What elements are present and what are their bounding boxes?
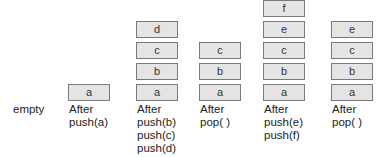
stack-item: a <box>263 84 305 101</box>
stack-item: c <box>199 42 241 59</box>
stack-item: f <box>263 0 305 17</box>
stack-item: a <box>199 84 241 101</box>
stack-item: b <box>331 63 373 80</box>
state-empty-caption: empty <box>13 103 44 116</box>
stack-item: a <box>136 84 178 101</box>
stack-item: b <box>136 63 178 80</box>
stack-item: a <box>331 84 373 101</box>
stack-item: e <box>331 21 373 38</box>
stack: a b c d <box>136 21 178 101</box>
stack: a b c e <box>331 21 373 101</box>
stack-item: d <box>136 21 178 38</box>
stack-item: c <box>136 42 178 59</box>
state-push-a: a After push(a) <box>68 0 110 157</box>
stack-item: b <box>199 63 241 80</box>
state-caption: After push(e) push(f) <box>264 103 303 142</box>
state-caption: After push(a) <box>69 103 108 129</box>
state-pop-1: a b c After pop( ) <box>199 0 241 157</box>
state-push-bcd: a b c d After push(b) push(c) push(d) <box>136 0 178 157</box>
state-caption: After pop( ) <box>332 103 362 129</box>
stack-item: c <box>263 42 305 59</box>
state-push-ef: a b c e f After push(e) push(f) <box>263 0 305 157</box>
stack-item: e <box>263 21 305 38</box>
state-caption: After pop( ) <box>200 103 230 129</box>
state-caption: After push(b) push(c) push(d) <box>137 103 176 155</box>
stack: a b c <box>199 42 241 101</box>
stack-item: b <box>263 63 305 80</box>
stack: a <box>68 84 110 101</box>
stack: a b c e f <box>263 0 305 101</box>
stack-item: a <box>68 84 110 101</box>
state-pop-2: a b c e After pop( ) <box>331 0 373 157</box>
stack-item: c <box>331 42 373 59</box>
